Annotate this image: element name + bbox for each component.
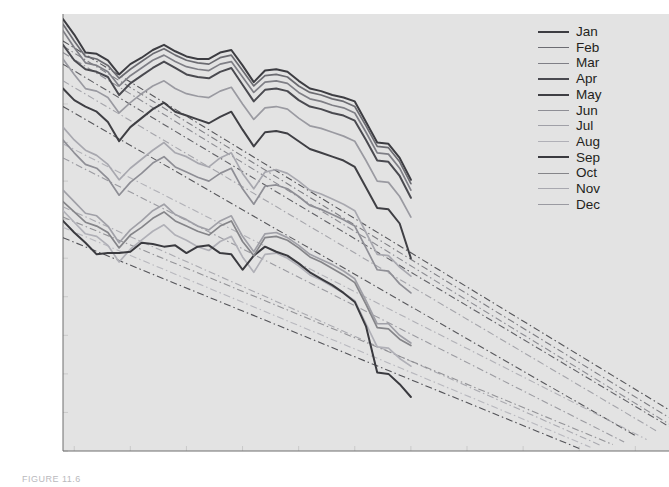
legend-label-sep: Sep xyxy=(576,151,600,165)
legend-label-dec: Dec xyxy=(576,198,600,212)
legend-swatch-feb xyxy=(538,47,569,48)
legend-swatch-sep xyxy=(538,156,569,158)
legend-item-feb[interactable]: Feb xyxy=(538,40,658,56)
legend-swatch-dec xyxy=(538,204,569,205)
legend-label-jul: Jul xyxy=(576,119,593,133)
legend-item-nov[interactable]: Nov xyxy=(538,181,658,197)
legend-swatch-jan xyxy=(538,31,569,33)
chart-container: Thousands of km3 03,0006,0009,00012,0001… xyxy=(0,0,669,487)
legend-swatch-apr xyxy=(538,78,569,80)
legend-item-sep[interactable]: Sep xyxy=(538,150,658,166)
legend-label-jun: Jun xyxy=(576,104,598,118)
legend-item-aug[interactable]: Aug xyxy=(538,134,658,150)
legend-item-mar[interactable]: Mar xyxy=(538,55,658,71)
legend: JanFebMarAprMayJunJulAugSepOctNovDec xyxy=(538,24,658,212)
legend-item-jul[interactable]: Jul xyxy=(538,118,658,134)
legend-swatch-aug xyxy=(538,141,569,142)
legend-label-oct: Oct xyxy=(576,166,597,180)
legend-item-oct[interactable]: Oct xyxy=(538,165,658,181)
legend-item-may[interactable]: May xyxy=(538,87,658,103)
legend-item-jun[interactable]: Jun xyxy=(538,102,658,118)
legend-swatch-nov xyxy=(538,188,569,189)
legend-swatch-jun xyxy=(538,110,569,111)
legend-label-aug: Aug xyxy=(576,135,600,149)
legend-swatch-mar xyxy=(538,63,569,64)
legend-swatch-oct xyxy=(538,173,569,174)
legend-item-apr[interactable]: Apr xyxy=(538,71,658,87)
legend-label-feb: Feb xyxy=(576,41,599,55)
legend-item-dec[interactable]: Dec xyxy=(538,197,658,213)
legend-item-jan[interactable]: Jan xyxy=(538,24,658,40)
legend-swatch-may xyxy=(538,94,569,96)
figure-caption: FIGURE 11.6 xyxy=(22,474,81,484)
legend-swatch-jul xyxy=(538,125,569,126)
legend-label-jan: Jan xyxy=(576,25,598,39)
legend-label-mar: Mar xyxy=(576,56,599,70)
legend-label-apr: Apr xyxy=(576,72,597,86)
legend-label-may: May xyxy=(576,88,602,102)
legend-label-nov: Nov xyxy=(576,182,600,196)
